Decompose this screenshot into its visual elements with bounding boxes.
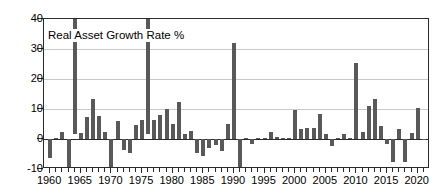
x-tick-minor bbox=[239, 168, 240, 172]
bar bbox=[312, 128, 316, 139]
x-tick-minor bbox=[98, 168, 99, 172]
bar bbox=[183, 134, 187, 139]
bar bbox=[48, 139, 52, 158]
x-tick-minor bbox=[257, 168, 258, 172]
x-tick-minor bbox=[153, 168, 154, 172]
x-tick-minor bbox=[270, 168, 271, 172]
x-tick-minor bbox=[337, 168, 338, 172]
x-tick-minor bbox=[343, 168, 344, 172]
bar bbox=[410, 133, 414, 139]
x-tick-label: 1965 bbox=[68, 174, 92, 186]
bar bbox=[201, 139, 205, 156]
x-tick-minor bbox=[368, 168, 369, 172]
x-tick-label: 1995 bbox=[251, 174, 275, 186]
x-tick-minor bbox=[251, 168, 252, 172]
x-tick-minor bbox=[159, 168, 160, 172]
bar bbox=[60, 132, 64, 140]
x-tick-minor bbox=[190, 168, 191, 172]
x-tick-label: 2005 bbox=[313, 174, 337, 186]
x-tick-minor bbox=[178, 168, 179, 172]
x-tick-minor bbox=[215, 168, 216, 172]
bar bbox=[324, 134, 328, 139]
x-tick-major bbox=[202, 168, 203, 173]
bar bbox=[299, 129, 303, 139]
y-tick-label: 20 bbox=[9, 73, 43, 84]
x-tick-major bbox=[264, 168, 265, 173]
bar bbox=[379, 126, 383, 140]
bar bbox=[54, 138, 58, 139]
x-tick-minor bbox=[411, 168, 412, 172]
x-tick-minor bbox=[319, 168, 320, 172]
bar bbox=[226, 124, 230, 139]
x-tick-minor bbox=[300, 168, 301, 172]
bar bbox=[250, 139, 254, 144]
x-tick-minor bbox=[74, 168, 75, 172]
x-tick-minor bbox=[104, 168, 105, 172]
bar bbox=[177, 102, 181, 139]
bar bbox=[287, 138, 291, 139]
x-tick-minor bbox=[68, 168, 69, 172]
bar bbox=[391, 139, 395, 162]
bar bbox=[220, 139, 224, 151]
bar bbox=[238, 139, 242, 168]
x-tick-major bbox=[325, 168, 326, 173]
bar bbox=[171, 124, 175, 139]
bar bbox=[305, 128, 309, 139]
bar bbox=[189, 131, 193, 139]
x-tick-minor bbox=[392, 168, 393, 172]
x-tick-minor bbox=[208, 168, 209, 172]
y-tick-label: 40 bbox=[9, 13, 43, 24]
x-tick-label: 1975 bbox=[129, 174, 153, 186]
x-tick-minor bbox=[196, 168, 197, 172]
bar bbox=[361, 132, 365, 140]
x-tick-label: 1985 bbox=[190, 174, 214, 186]
x-tick-minor bbox=[166, 168, 167, 172]
bar bbox=[336, 138, 340, 139]
bar bbox=[348, 138, 352, 139]
x-tick-minor bbox=[349, 168, 350, 172]
x-tick-minor bbox=[423, 168, 424, 172]
x-tick-major bbox=[141, 168, 142, 173]
x-tick-minor bbox=[331, 168, 332, 172]
x-tick-label: 2010 bbox=[343, 174, 367, 186]
x-tick-label: 2020 bbox=[404, 174, 428, 186]
x-axis: 1960196519701975198019851990199520002005… bbox=[43, 168, 429, 193]
x-tick-minor bbox=[227, 168, 228, 172]
bar bbox=[342, 134, 346, 139]
x-tick-major bbox=[233, 168, 234, 173]
bar bbox=[422, 139, 426, 140]
bar bbox=[293, 110, 297, 139]
y-tick-label: 0 bbox=[9, 133, 43, 144]
bar bbox=[134, 125, 138, 139]
bar bbox=[373, 99, 377, 140]
bar bbox=[158, 115, 162, 139]
x-tick-minor bbox=[55, 168, 56, 172]
bar bbox=[122, 139, 126, 150]
bar bbox=[281, 138, 285, 139]
x-tick-minor bbox=[306, 168, 307, 172]
y-axis: 403020100-10 bbox=[0, 0, 43, 193]
bar bbox=[232, 43, 236, 139]
bar bbox=[330, 139, 334, 146]
bar bbox=[207, 139, 211, 148]
bar bbox=[214, 139, 218, 145]
bar bbox=[275, 137, 279, 139]
bar bbox=[397, 129, 401, 139]
bar bbox=[385, 139, 389, 144]
bar bbox=[244, 138, 248, 139]
x-tick-minor bbox=[362, 168, 363, 172]
x-tick-label: 1980 bbox=[159, 174, 183, 186]
bar bbox=[67, 139, 71, 167]
x-tick-label: 1970 bbox=[98, 174, 122, 186]
x-tick-minor bbox=[147, 168, 148, 172]
y-tick-label: 10 bbox=[9, 103, 43, 114]
x-tick-label: 2015 bbox=[374, 174, 398, 186]
x-tick-minor bbox=[313, 168, 314, 172]
x-tick-minor bbox=[398, 168, 399, 172]
gridline bbox=[44, 49, 428, 50]
x-tick-major bbox=[417, 168, 418, 173]
real-asset-growth-rate-chart: 403020100-10 196019651970197519801985199… bbox=[0, 0, 445, 193]
x-tick-label: 1960 bbox=[37, 174, 61, 186]
x-tick-minor bbox=[117, 168, 118, 172]
y-tick-label: 30 bbox=[9, 43, 43, 54]
